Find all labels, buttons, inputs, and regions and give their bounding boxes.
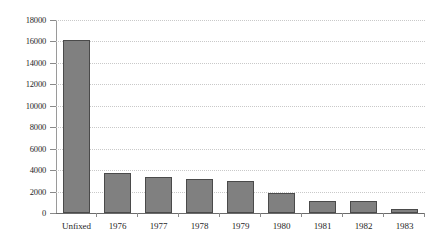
y-axis-tick-label: 18000 (2, 16, 46, 25)
x-axis-tick-label: 1977 (138, 221, 179, 232)
bar-slot (261, 20, 302, 213)
y-axis-tick-label: 10000 (2, 102, 46, 111)
bar-slot (56, 20, 97, 213)
bar (186, 179, 214, 213)
x-axis-tick-label: 1980 (261, 221, 302, 232)
bars-container (56, 20, 425, 213)
x-axis-tick-label: Unfixed (56, 221, 97, 232)
x-axis-tick-label: 1978 (179, 221, 220, 232)
y-axis-tick-label: 6000 (2, 145, 46, 154)
bar (104, 173, 132, 213)
bar (309, 201, 337, 213)
y-axis-tick-label: 14000 (2, 59, 46, 68)
bar-slot (220, 20, 261, 213)
bar (63, 40, 91, 213)
bar-slot (384, 20, 425, 213)
x-axis-tick (261, 213, 302, 218)
y-axis-tick-label: 4000 (2, 166, 46, 175)
x-axis-tick (343, 213, 384, 218)
y-axis-tick-label: 8000 (2, 123, 46, 132)
x-axis-tick-label: 1981 (302, 221, 343, 232)
bar-chart: 1800016000140001200010000800060004000200… (0, 0, 444, 247)
bar-slot (138, 20, 179, 213)
bar-slot (343, 20, 384, 213)
x-axis-tick (179, 213, 220, 218)
bar-slot (179, 20, 220, 213)
x-axis-ticks (56, 213, 425, 218)
bar (145, 177, 173, 213)
x-axis-tick (302, 213, 343, 218)
y-axis-tick-label: 0 (2, 209, 46, 218)
x-axis-tick (220, 213, 261, 218)
bar-slot (97, 20, 138, 213)
x-axis-tick (138, 213, 179, 218)
bar (227, 181, 255, 213)
bar-slot (302, 20, 343, 213)
x-axis-tick (56, 213, 97, 218)
x-axis-tick (97, 213, 138, 218)
x-axis-tick (384, 213, 425, 218)
bar (350, 201, 378, 213)
x-axis-tick-label: 1979 (220, 221, 261, 232)
y-axis-tick-label: 12000 (2, 80, 46, 89)
x-axis-tick-label: 1983 (384, 221, 425, 232)
x-axis-tick-label: 1976 (97, 221, 138, 232)
y-axis-tick-label: 2000 (2, 188, 46, 197)
bar (268, 193, 296, 213)
y-axis-tick-label: 16000 (2, 37, 46, 46)
x-axis-tick-label: 1982 (343, 221, 384, 232)
x-axis-labels: Unfixed19761977197819791980198119821983 (56, 221, 425, 232)
